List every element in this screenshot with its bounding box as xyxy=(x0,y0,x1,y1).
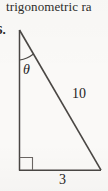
right-angle-marker-icon xyxy=(20,158,33,171)
angle-label-theta: θ xyxy=(23,62,30,78)
triangle-hypotenuse xyxy=(20,30,102,170)
base-length-label: 3 xyxy=(59,172,66,188)
right-triangle-figure xyxy=(0,0,108,191)
hypotenuse-length-label: 10 xyxy=(72,86,86,102)
angle-arc-theta xyxy=(20,54,34,60)
textbook-page: trigonometric ra 6. θ 10 3 xyxy=(0,0,108,191)
